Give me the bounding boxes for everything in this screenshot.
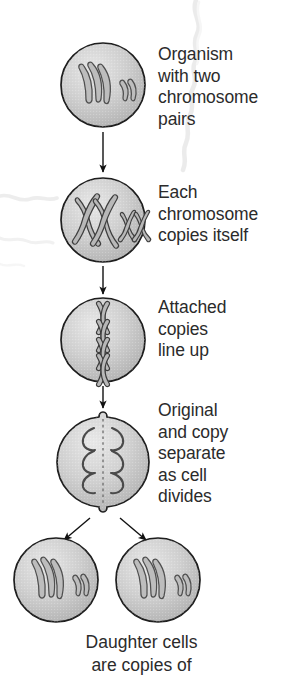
daughter-cell-left bbox=[14, 538, 98, 622]
stage-label-separate: Original and copy separate as cell divid… bbox=[158, 400, 228, 508]
stage-label-copy: Each chromosome copies itself bbox=[158, 182, 258, 247]
stage-organism-cell bbox=[61, 43, 145, 127]
stage-copy-cell bbox=[61, 178, 151, 262]
stage-label-organism: Organism with two chromosome pairs bbox=[158, 44, 258, 130]
stage-label-lineup: Attached copies line up bbox=[158, 297, 226, 362]
stage-lineup-cell bbox=[61, 298, 145, 386]
arrow-separate-to-daughter-right bbox=[120, 518, 146, 540]
stage-separate-cell bbox=[57, 412, 149, 512]
daughter-cell-right bbox=[116, 538, 200, 622]
diagram-caption: Daughter cells are copies of bbox=[0, 631, 283, 677]
mitosis-diagram-page: Organism with two chromosome pairs Each … bbox=[0, 0, 283, 683]
arrow-separate-to-daughter-left bbox=[64, 518, 90, 540]
